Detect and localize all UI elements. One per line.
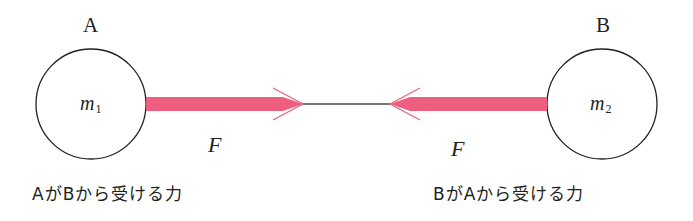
body-b-label: B (596, 13, 610, 38)
caption-b: BがAから受ける力 (433, 180, 584, 205)
force-arrow-a (146, 88, 303, 120)
mass-a-subscript: 1 (95, 102, 101, 116)
force-arrow-b (390, 88, 547, 120)
caption-a: AがBから受ける力 (32, 180, 183, 205)
body-a-label: A (83, 13, 98, 38)
mass-b-subscript: 2 (605, 102, 611, 116)
mass-a: m1 (80, 92, 101, 117)
mass-b: m2 (590, 92, 611, 117)
force-a-label: F (208, 132, 221, 158)
force-b-label: F (451, 136, 464, 162)
mass-a-symbol: m (80, 92, 94, 114)
mass-b-symbol: m (590, 92, 604, 114)
